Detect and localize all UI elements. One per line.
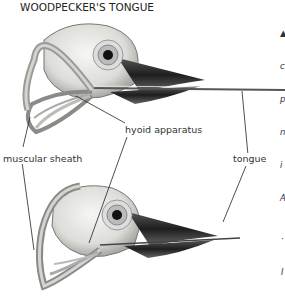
side-text-line: c bbox=[280, 61, 285, 72]
side-text-line: A bbox=[280, 193, 285, 204]
side-text-line: ▲ bbox=[280, 28, 285, 39]
side-text-top: ▲ c p n i A bbox=[280, 6, 285, 215]
side-text-line: I bbox=[281, 267, 285, 278]
side-text-line: p bbox=[280, 94, 285, 105]
bottom-head bbox=[39, 186, 240, 286]
woodpecker-illustration bbox=[0, 0, 285, 296]
label-tongue: tongue bbox=[232, 153, 267, 164]
label-muscular-sheath: muscular sheath bbox=[2, 153, 83, 164]
side-text-line: i bbox=[280, 160, 285, 171]
side-text-bottom: · I t s r s b bbox=[281, 212, 285, 296]
label-hyoid-apparatus: hyoid apparatus bbox=[124, 124, 203, 135]
side-text-line: · bbox=[281, 234, 285, 245]
side-text-line: n bbox=[280, 127, 285, 138]
top-head bbox=[26, 24, 285, 132]
